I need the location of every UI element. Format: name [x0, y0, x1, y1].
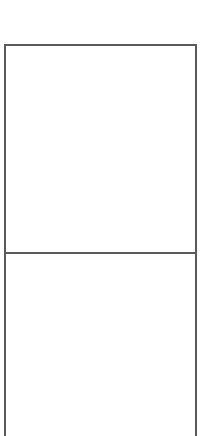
- lower-panel: [6, 254, 195, 436]
- upper-panel: [6, 46, 195, 252]
- outline-frame: [4, 44, 197, 436]
